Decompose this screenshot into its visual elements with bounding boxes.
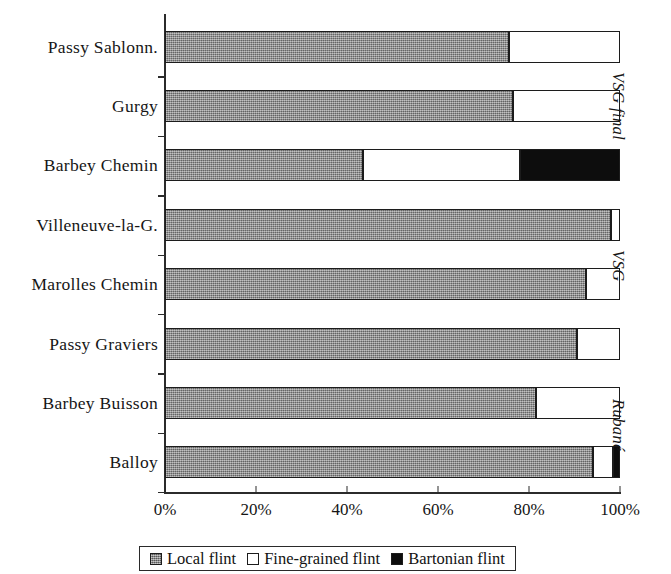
plot-area	[165, 17, 620, 492]
x-axis-tick-label: 100%	[600, 500, 640, 520]
legend-swatch-fine-icon	[247, 553, 259, 565]
y-axis-tick	[158, 314, 166, 315]
bar-row	[165, 268, 620, 300]
x-axis-tick-label: 80%	[513, 500, 544, 520]
y-axis-tick	[158, 255, 166, 256]
y-axis-tick	[158, 76, 166, 77]
legend-label: Fine-grained flint	[264, 549, 380, 569]
category-label: Passy Sablonn.	[6, 36, 158, 57]
legend-label: Bartonian flint	[408, 549, 505, 569]
y-axis-tick	[158, 136, 166, 137]
category-label: Barbey Chemin	[6, 155, 158, 176]
bar-row	[165, 387, 620, 419]
legend-item: Fine-grained flint	[247, 549, 380, 569]
bar-row	[165, 209, 620, 241]
x-axis-tick-label: 40%	[331, 500, 362, 520]
bar-row	[165, 31, 620, 63]
x-axis-tick-label: 20%	[240, 500, 271, 520]
bar-row	[165, 149, 620, 181]
group-label: VSG final	[608, 72, 628, 140]
category-label: Balloy	[6, 452, 158, 473]
bar-segment-fine	[363, 149, 520, 181]
legend-item: Local flint	[150, 549, 236, 569]
bar-segment-fine	[577, 328, 620, 360]
bar-segment-local	[165, 149, 363, 181]
group-label: Rubané	[608, 399, 628, 452]
category-label: Villeneuve-la-G.	[6, 214, 158, 235]
category-label: Barbey Buisson	[6, 392, 158, 413]
legend-label: Local flint	[167, 549, 236, 569]
x-axis-line	[164, 492, 621, 494]
x-axis-tick	[438, 486, 439, 494]
bar-segment-fine	[509, 31, 620, 63]
bar-segment-local	[165, 209, 611, 241]
x-axis-tick-label: 60%	[422, 500, 453, 520]
x-axis-tick	[529, 486, 530, 494]
bar-segment-bartonian	[520, 149, 620, 181]
legend-swatch-local-icon	[150, 553, 162, 565]
legend-item: Bartonian flint	[391, 549, 505, 569]
bar-segment-fine	[513, 90, 620, 122]
x-axis-tick	[620, 486, 621, 494]
bar-segment-local	[165, 31, 509, 63]
bar-row	[165, 328, 620, 360]
group-label: VSG	[608, 250, 628, 281]
chart-legend: Local flintFine-grained flintBartonian f…	[139, 546, 516, 571]
y-axis-tick	[158, 433, 166, 434]
x-axis-tick	[165, 486, 166, 494]
x-axis-tick-label: 0%	[154, 500, 177, 520]
bar-segment-local	[165, 90, 513, 122]
bar-segment-local	[165, 268, 586, 300]
bar-row	[165, 90, 620, 122]
bar-segment-fine	[611, 209, 620, 241]
category-label: Marolles Chemin	[6, 274, 158, 295]
x-axis-tick	[347, 486, 348, 494]
bar-segment-local	[165, 387, 536, 419]
bar-segment-local	[165, 328, 577, 360]
category-label: Gurgy	[6, 96, 158, 117]
y-axis-tick	[158, 373, 166, 374]
stacked-bar-chart: Passy Sablonn.GurgyBarbey CheminVilleneu…	[0, 0, 671, 574]
y-axis-tick	[158, 195, 166, 196]
category-label: Passy Graviers	[6, 333, 158, 354]
bar-row	[165, 446, 620, 478]
x-axis-tick	[256, 486, 257, 494]
bar-segment-local	[165, 446, 593, 478]
legend-swatch-bartonian-icon	[391, 553, 403, 565]
category-axis-labels: Passy Sablonn.GurgyBarbey CheminVilleneu…	[0, 0, 158, 574]
